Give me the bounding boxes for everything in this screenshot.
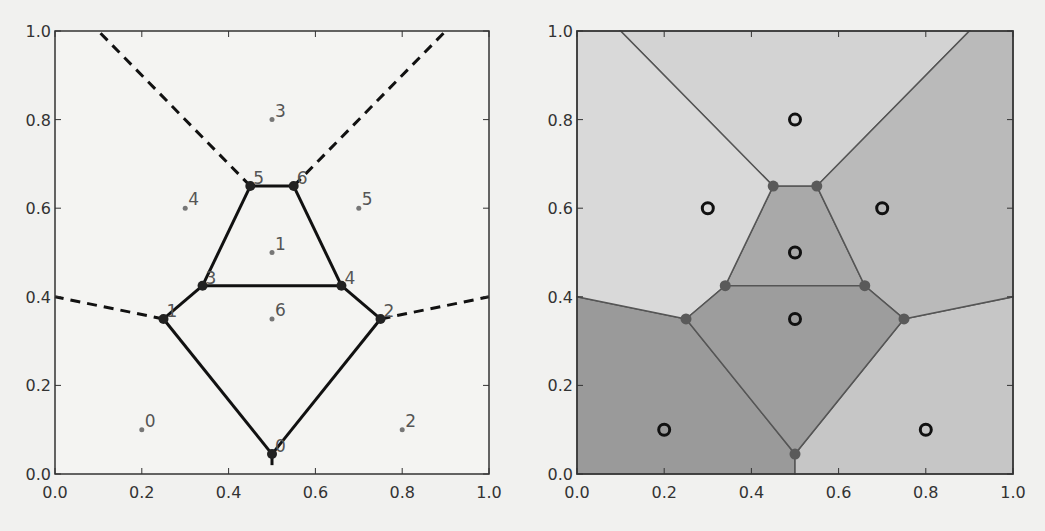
voronoi-vertex <box>811 181 822 192</box>
input-point-marker <box>790 114 801 125</box>
vertex-label: 6 <box>297 168 308 188</box>
left-plot-voronoi-diagram: 012345601234560.00.20.40.60.81.00.00.20.… <box>26 22 502 502</box>
x-tick-label: 0.8 <box>913 483 938 502</box>
x-tick-label: 0.4 <box>216 483 241 502</box>
vertex-label: 3 <box>206 268 217 288</box>
y-tick-label: 0.0 <box>548 465 573 484</box>
point-label: 2 <box>405 411 416 431</box>
input-point-marker <box>790 247 801 258</box>
x-tick-label: 0.0 <box>564 483 589 502</box>
y-tick-label: 0.4 <box>26 288 51 307</box>
y-tick-label: 0.8 <box>26 111 51 130</box>
vertex-label: 0 <box>275 436 286 456</box>
input-point <box>270 316 275 321</box>
y-tick-label: 0.4 <box>548 288 573 307</box>
y-tick-label: 1.0 <box>548 22 573 41</box>
x-tick-label: 0.6 <box>303 483 328 502</box>
x-tick-label: 0.4 <box>739 483 764 502</box>
voronoi-vertex <box>768 181 779 192</box>
voronoi-vertex <box>720 280 731 291</box>
vertex-label: 4 <box>344 268 355 288</box>
x-tick-label: 0.0 <box>42 483 67 502</box>
input-point <box>183 206 188 211</box>
input-point <box>139 427 144 432</box>
input-point-marker <box>702 203 713 214</box>
input-point-marker <box>659 424 670 435</box>
input-point <box>270 117 275 122</box>
input-point-marker <box>877 203 888 214</box>
y-tick-label: 0.8 <box>548 111 573 130</box>
point-label: 1 <box>275 234 286 254</box>
x-tick-label: 1.0 <box>476 483 501 502</box>
right-plot-voronoi-regions: 0.00.20.40.60.81.00.00.20.40.60.81.0 <box>548 22 1026 502</box>
input-point-marker <box>790 313 801 324</box>
y-tick-label: 0.2 <box>26 376 51 395</box>
x-tick-label: 0.2 <box>651 483 676 502</box>
input-point <box>356 206 361 211</box>
input-point <box>270 250 275 255</box>
point-label: 0 <box>145 411 156 431</box>
voronoi-vertex <box>790 449 801 460</box>
vertex-label: 2 <box>384 301 395 321</box>
x-tick-label: 0.2 <box>129 483 154 502</box>
x-tick-label: 1.0 <box>1000 483 1025 502</box>
point-label: 3 <box>275 101 286 121</box>
y-tick-label: 0.6 <box>26 199 51 218</box>
y-tick-label: 1.0 <box>26 22 51 41</box>
vertex-label: 5 <box>253 168 264 188</box>
input-point <box>400 427 405 432</box>
point-label: 5 <box>362 189 373 209</box>
x-tick-label: 0.6 <box>826 483 851 502</box>
input-point-marker <box>920 424 931 435</box>
point-label: 6 <box>275 300 286 320</box>
vertex-label: 1 <box>167 301 178 321</box>
voronoi-vertex <box>681 313 692 324</box>
voronoi-vertex <box>859 280 870 291</box>
voronoi-vertex <box>899 313 910 324</box>
y-tick-label: 0.6 <box>548 199 573 218</box>
y-tick-label: 0.2 <box>548 376 573 395</box>
point-label: 4 <box>188 189 199 209</box>
voronoi-figure: 012345601234560.00.20.40.60.81.00.00.20.… <box>0 0 1045 531</box>
y-tick-label: 0.0 <box>26 465 51 484</box>
x-tick-label: 0.8 <box>389 483 414 502</box>
